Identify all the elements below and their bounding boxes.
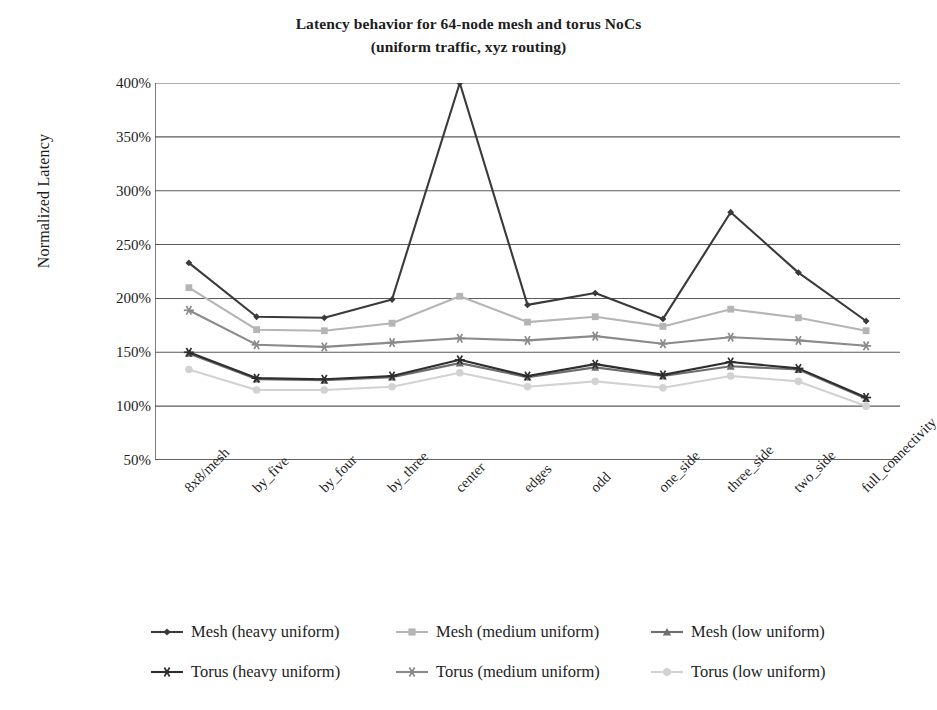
legend-label: Mesh (medium uniform): [436, 622, 599, 642]
legend-marker-triangle-icon: [650, 625, 684, 639]
legend-label: Torus (heavy uniform): [191, 662, 340, 682]
data-point-asterisk: [184, 306, 194, 315]
data-point-circle: [591, 378, 599, 386]
data-point-diamond: [456, 83, 463, 86]
data-point-circle: [388, 383, 396, 391]
legend-label: Mesh (low uniform): [691, 622, 825, 642]
legend-item[interactable]: Mesh (medium uniform): [395, 622, 650, 642]
data-point-square: [456, 293, 463, 300]
data-point-diamond: [321, 314, 328, 321]
x-tick-label: edges: [520, 461, 555, 496]
series-torus-low-uniform: [185, 366, 870, 410]
data-point-diamond: [163, 628, 170, 635]
y-tick-label: 250%: [77, 238, 151, 253]
data-point-circle: [253, 386, 261, 394]
series-torus-heavy-uniform: [184, 348, 871, 402]
data-point-square: [592, 313, 599, 320]
series-torus-medium-uniform: [184, 306, 871, 351]
data-point-circle: [659, 384, 667, 392]
chart-title-line1: Latency behavior for 64-node mesh and to…: [296, 15, 642, 32]
legend-label: Mesh (heavy uniform): [191, 622, 339, 642]
y-axis-tick-labels: 400%350%300%250%200%150%100%50%: [69, 83, 151, 460]
data-point-asterisk: [658, 339, 668, 348]
data-point-circle: [524, 383, 532, 391]
data-point-asterisk: [455, 334, 465, 343]
legend-item[interactable]: Mesh (heavy uniform): [150, 622, 395, 642]
data-point-square: [727, 306, 734, 313]
data-point-square: [660, 323, 667, 330]
y-tick-label: 100%: [77, 399, 151, 414]
data-point-asterisk: [590, 332, 600, 341]
data-point-diamond: [592, 290, 599, 297]
data-point-circle: [663, 668, 671, 676]
data-point-star: [162, 667, 172, 676]
data-point-square: [524, 319, 531, 326]
legend-label: Torus (medium uniform): [436, 662, 600, 682]
data-point-asterisk: [523, 336, 533, 345]
data-point-diamond: [524, 301, 531, 308]
data-point-diamond: [389, 296, 396, 303]
data-point-circle: [321, 386, 329, 394]
y-tick-label: 150%: [77, 345, 151, 360]
chart-title: Latency behavior for 64-node mesh and to…: [0, 12, 937, 58]
data-point-circle: [795, 378, 803, 386]
data-point-asterisk: [252, 340, 262, 349]
legend-marker-star-icon: [150, 665, 184, 679]
legend-marker-asterisk-icon: [395, 665, 429, 679]
data-point-square: [408, 628, 415, 635]
legend-item[interactable]: Mesh (low uniform): [650, 622, 880, 642]
data-point-square: [321, 327, 328, 334]
data-point-asterisk: [407, 667, 417, 676]
data-point-asterisk: [319, 343, 329, 352]
legend-label: Torus (low uniform): [691, 662, 826, 682]
data-point-asterisk: [726, 333, 736, 342]
y-tick-label: 50%: [77, 453, 151, 468]
data-point-circle: [727, 372, 735, 380]
legend-marker-circle-icon: [650, 665, 684, 679]
data-point-square: [863, 327, 870, 334]
plot-svg: [155, 83, 900, 460]
legend-item[interactable]: Torus (medium uniform): [395, 662, 650, 682]
data-point-square: [253, 326, 260, 333]
y-axis-title: Normalized Latency: [35, 91, 53, 311]
data-point-square: [389, 320, 396, 327]
chart-title-line2: (uniform traffic, xyz routing): [0, 35, 937, 58]
legend-marker-square-icon: [395, 625, 429, 639]
x-tick-label: center: [452, 459, 489, 496]
data-point-circle: [185, 366, 193, 374]
x-axis-tick-labels: 8x8/meshby_fiveby_fourby_threecenteredge…: [155, 468, 915, 618]
series-mesh-heavy-uniform: [185, 83, 869, 324]
y-tick-label: 350%: [77, 130, 151, 145]
data-point-circle: [456, 369, 464, 377]
plot-area: [155, 83, 900, 460]
series-line: [189, 83, 866, 321]
chart-page: Latency behavior for 64-node mesh and to…: [0, 0, 937, 710]
data-point-asterisk: [793, 336, 803, 345]
legend-item[interactable]: Torus (heavy uniform): [150, 662, 395, 682]
y-tick-label: 400%: [77, 76, 151, 91]
data-point-asterisk: [387, 338, 397, 347]
y-tick-label: 300%: [77, 184, 151, 199]
legend-item[interactable]: Torus (low uniform): [650, 662, 880, 682]
data-point-asterisk: [861, 341, 871, 350]
chart-legend: Mesh (heavy uniform)Mesh (medium uniform…: [150, 612, 910, 692]
legend-marker-diamond-icon: [150, 625, 184, 639]
x-tick-label: odd: [587, 469, 614, 496]
data-point-square: [795, 314, 802, 321]
data-point-circle: [862, 402, 870, 410]
data-point-square: [185, 284, 192, 291]
y-tick-label: 200%: [77, 291, 151, 306]
series-mesh-medium-uniform: [185, 284, 869, 334]
